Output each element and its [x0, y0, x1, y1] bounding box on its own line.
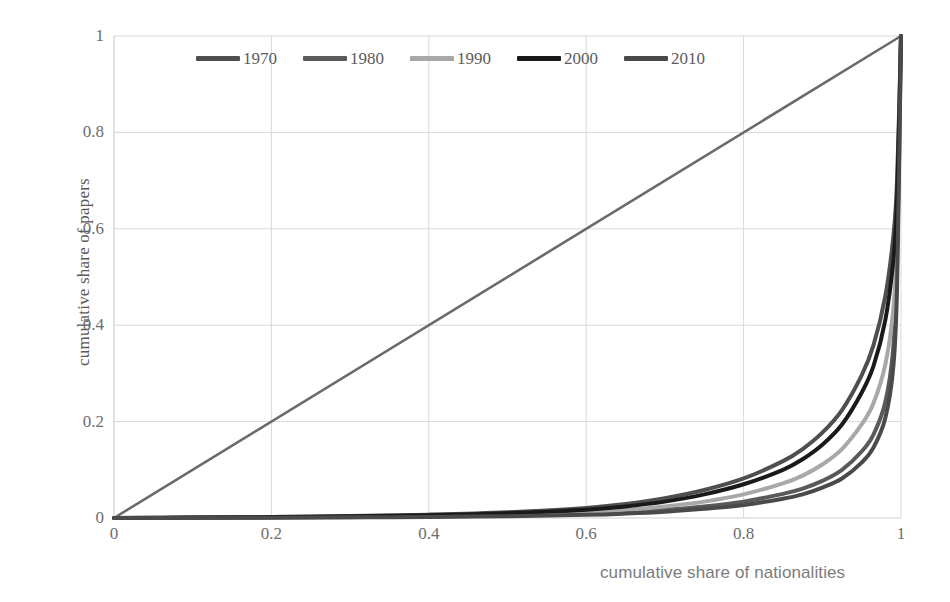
legend-entry-2010[interactable]: 2010: [624, 50, 705, 67]
legend-entry-1970[interactable]: 1970: [196, 50, 277, 67]
legend-entry-2000[interactable]: 2000: [517, 50, 598, 67]
legend-label: 1980: [349, 50, 384, 67]
plot-area: [0, 0, 950, 602]
legend-label: 1970: [242, 50, 277, 67]
equality-line: [114, 36, 901, 518]
legend-swatch-icon: [196, 56, 240, 61]
equality-line-path: [114, 36, 901, 518]
legend-swatch-icon: [303, 56, 347, 61]
chart-legend: 19701980199020002010: [196, 50, 705, 67]
legend-swatch-icon: [624, 56, 668, 61]
legend-swatch-icon: [517, 56, 561, 61]
lorenz-curve-chart: cumulative share of papers 00.20.40.60.8…: [0, 0, 950, 602]
legend-entry-1980[interactable]: 1980: [303, 50, 384, 67]
legend-label: 1990: [456, 50, 491, 67]
legend-label: 2010: [670, 50, 705, 67]
legend-label: 2000: [563, 50, 598, 67]
legend-swatch-icon: [410, 56, 454, 61]
legend-entry-1990[interactable]: 1990: [410, 50, 491, 67]
